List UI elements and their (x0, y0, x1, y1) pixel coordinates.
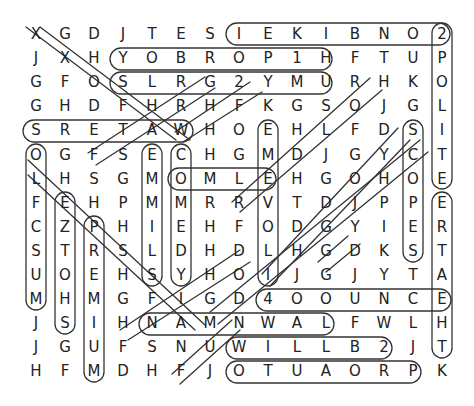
grid-cell[interactable]: V (256, 192, 280, 214)
grid-cell[interactable]: M (256, 144, 280, 166)
grid-cell[interactable]: G (314, 264, 338, 286)
grid-cell[interactable]: U (343, 288, 367, 310)
grid-cell[interactable]: E (169, 23, 193, 45)
grid-cell[interactable]: R (343, 71, 367, 93)
grid-cell[interactable]: 2 (372, 336, 396, 358)
grid-cell[interactable]: H (111, 264, 135, 286)
grid-cell[interactable]: F (111, 336, 135, 358)
grid-cell[interactable]: L (314, 336, 338, 358)
grid-cell[interactable]: 2 (430, 23, 454, 45)
grid-cell[interactable]: L (285, 336, 309, 358)
grid-cell[interactable]: T (430, 240, 454, 262)
grid-cell[interactable]: F (343, 47, 367, 69)
grid-cell[interactable]: H (24, 360, 48, 382)
grid-cell[interactable]: E (256, 119, 280, 141)
grid-cell[interactable]: N (227, 312, 251, 334)
grid-cell[interactable]: S (111, 144, 135, 166)
grid-cell[interactable]: Y (256, 71, 280, 93)
grid-cell[interactable]: D (314, 192, 338, 214)
grid-cell[interactable]: E (401, 216, 425, 238)
grid-cell[interactable]: E (169, 216, 193, 238)
grid-cell[interactable]: E (256, 168, 280, 190)
grid-cell[interactable]: F (140, 288, 164, 310)
grid-cell[interactable]: H (111, 312, 135, 334)
grid-cell[interactable]: H (53, 95, 77, 117)
grid-cell[interactable]: U (24, 264, 48, 286)
grid-cell[interactable]: M (285, 71, 309, 93)
grid-cell[interactable]: H (198, 264, 222, 286)
grid-cell[interactable]: A (430, 264, 454, 286)
grid-cell[interactable]: D (111, 360, 135, 382)
grid-cell[interactable]: F (53, 71, 77, 93)
grid-cell[interactable]: K (285, 23, 309, 45)
grid-cell[interactable]: Y (372, 144, 396, 166)
grid-cell[interactable]: A (140, 119, 164, 141)
grid-cell[interactable]: U (82, 336, 106, 358)
grid-cell[interactable]: I (256, 336, 280, 358)
grid-cell[interactable]: F (111, 95, 135, 117)
grid-cell[interactable]: L (314, 119, 338, 141)
grid-cell[interactable]: H (285, 168, 309, 190)
grid-cell[interactable]: O (24, 144, 48, 166)
grid-cell[interactable]: J (111, 23, 135, 45)
grid-cell[interactable]: L (24, 168, 48, 190)
grid-cell[interactable]: W (169, 119, 193, 141)
grid-cell[interactable]: G (314, 240, 338, 262)
grid-cell[interactable]: C (401, 288, 425, 310)
grid-cell[interactable]: O (285, 288, 309, 310)
grid-cell[interactable]: T (372, 47, 396, 69)
grid-cell[interactable]: G (198, 288, 222, 310)
grid-cell[interactable]: R (169, 95, 193, 117)
grid-cell[interactable]: E (140, 144, 164, 166)
grid-cell[interactable]: J (343, 192, 367, 214)
grid-cell[interactable]: G (53, 23, 77, 45)
grid-cell[interactable]: O (227, 47, 251, 69)
grid-cell[interactable]: H (285, 119, 309, 141)
grid-cell[interactable]: B (343, 23, 367, 45)
grid-cell[interactable]: I (430, 119, 454, 141)
grid-cell[interactable]: S (198, 23, 222, 45)
grid-cell[interactable]: F (169, 360, 193, 382)
grid-cell[interactable]: F (227, 216, 251, 238)
grid-cell[interactable]: D (82, 95, 106, 117)
grid-cell[interactable]: L (227, 168, 251, 190)
grid-cell[interactable]: G (285, 95, 309, 117)
grid-cell[interactable]: G (227, 144, 251, 166)
grid-cell[interactable]: M (82, 360, 106, 382)
grid-cell[interactable]: M (82, 288, 106, 310)
grid-cell[interactable]: U (285, 360, 309, 382)
grid-cell[interactable]: I (256, 264, 280, 286)
grid-cell[interactable]: G (111, 288, 135, 310)
grid-cell[interactable]: H (314, 47, 338, 69)
grid-cell[interactable]: U (314, 71, 338, 93)
grid-cell[interactable]: H (198, 144, 222, 166)
grid-cell[interactable]: S (53, 312, 77, 334)
grid-cell[interactable]: P (372, 192, 396, 214)
grid-cell[interactable]: C (169, 144, 193, 166)
grid-cell[interactable]: I (140, 216, 164, 238)
grid-cell[interactable]: H (285, 240, 309, 262)
grid-cell[interactable]: E (430, 288, 454, 310)
grid-cell[interactable]: F (343, 119, 367, 141)
grid-cell[interactable]: C (401, 144, 425, 166)
grid-cell[interactable]: R (372, 360, 396, 382)
grid-cell[interactable]: D (343, 240, 367, 262)
grid-cell[interactable]: T (285, 192, 309, 214)
grid-cell[interactable]: T (111, 119, 135, 141)
grid-cell[interactable]: F (53, 360, 77, 382)
grid-cell[interactable]: C (24, 216, 48, 238)
grid-cell[interactable]: H (430, 312, 454, 334)
grid-cell[interactable]: F (227, 95, 251, 117)
grid-cell[interactable]: E (430, 192, 454, 214)
grid-cell[interactable]: D (285, 144, 309, 166)
grid-cell[interactable]: H (140, 360, 164, 382)
grid-cell[interactable]: N (372, 23, 396, 45)
grid-cell[interactable]: A (169, 312, 193, 334)
grid-cell[interactable]: L (256, 240, 280, 262)
grid-cell[interactable]: L (314, 312, 338, 334)
grid-cell[interactable]: G (53, 144, 77, 166)
grid-cell[interactable]: F (82, 144, 106, 166)
grid-cell[interactable]: F (24, 192, 48, 214)
grid-cell[interactable]: S (24, 240, 48, 262)
grid-cell[interactable]: Y (169, 264, 193, 286)
